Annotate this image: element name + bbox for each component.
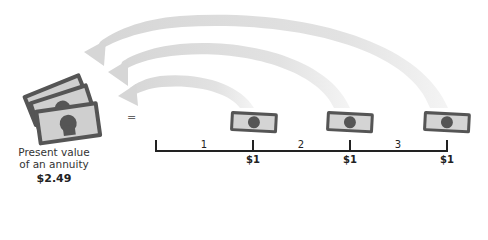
period-label-1: 1 bbox=[194, 139, 214, 150]
present-value-amount: $2.49 bbox=[14, 172, 94, 185]
period-label-2: 2 bbox=[291, 139, 311, 150]
cash-flow-2: $1 bbox=[338, 154, 362, 165]
bill-icon-period-3 bbox=[423, 111, 471, 133]
equals-sign: = bbox=[127, 111, 136, 124]
present-value-label: Present value of an annuity bbox=[14, 146, 94, 170]
bill-icon-period-2 bbox=[326, 111, 374, 133]
cash-flow-1: $1 bbox=[241, 154, 265, 165]
money-stack-icon bbox=[22, 73, 102, 146]
cash-flow-3: $1 bbox=[435, 154, 459, 165]
period-label-3: 3 bbox=[388, 139, 408, 150]
present-value-label-line2: of an annuity bbox=[14, 158, 94, 170]
bill-icon-period-1 bbox=[230, 111, 278, 133]
discount-arrow-period-1 bbox=[118, 75, 254, 108]
present-value-label-line1: Present value bbox=[14, 146, 94, 158]
